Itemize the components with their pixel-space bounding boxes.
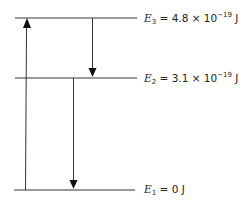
energy-unit: J bbox=[182, 183, 185, 195]
arrow-up-icon bbox=[23, 18, 31, 28]
level-subscript: 1 bbox=[152, 189, 156, 197]
equals-sign: = bbox=[159, 183, 168, 195]
transition-arrow-e3-e2 bbox=[89, 18, 97, 77]
energy-exponent: −19 bbox=[217, 11, 232, 19]
energy-unit: J bbox=[235, 72, 238, 84]
level-label-e3: E3 = 4.8 × 10−19 J bbox=[144, 12, 238, 26]
level-label-e1: E1 = 0 J bbox=[144, 184, 185, 197]
energy-symbol: E bbox=[144, 72, 152, 84]
energy-symbol: E bbox=[144, 183, 152, 195]
energy-value: 3.1 × 10 bbox=[172, 72, 218, 84]
arrow-down-icon bbox=[70, 180, 78, 189]
energy-level-diagram bbox=[0, 0, 243, 206]
equals-sign: = bbox=[159, 72, 168, 84]
energy-exponent: −19 bbox=[217, 71, 232, 79]
transition-arrow-e2-e1 bbox=[70, 78, 78, 189]
level-subscript: 2 bbox=[152, 78, 156, 86]
level-label-e2: E2 = 3.1 × 10−19 J bbox=[144, 72, 238, 86]
energy-value: 0 bbox=[172, 183, 179, 195]
arrow-down-icon bbox=[89, 68, 97, 77]
equals-sign: = bbox=[159, 12, 168, 24]
energy-unit: J bbox=[235, 12, 238, 24]
energy-value: 4.8 × 10 bbox=[172, 12, 218, 24]
transition-arrow-e1-e3 bbox=[23, 18, 31, 190]
level-subscript: 3 bbox=[152, 18, 156, 26]
energy-symbol: E bbox=[144, 12, 152, 24]
